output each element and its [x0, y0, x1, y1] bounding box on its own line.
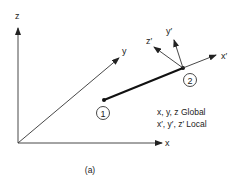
- legend-local: x′, y′, z′ Local: [157, 119, 207, 129]
- local-y-label: y′: [166, 26, 173, 36]
- local-z-axis: [154, 47, 183, 68]
- global-z-label: z: [15, 11, 20, 21]
- figure-caption: (a): [85, 165, 96, 175]
- node-2-label: 2: [187, 76, 192, 86]
- local-z-label: z′: [146, 36, 153, 46]
- node-1-label: 1: [100, 109, 105, 119]
- local-y-axis: [174, 40, 183, 68]
- node-1-dot: [102, 98, 106, 102]
- legend-global: x, y, z Global: [157, 107, 206, 117]
- coordinate-diagram: z x y x′ y′ z′ 1 2 x, y, z Global x′, y′…: [0, 0, 244, 183]
- local-x-label: x′: [221, 51, 228, 61]
- element-member: [104, 68, 183, 100]
- global-y-label: y: [122, 46, 127, 56]
- global-x-label: x: [165, 138, 170, 148]
- local-x-axis: [183, 55, 216, 68]
